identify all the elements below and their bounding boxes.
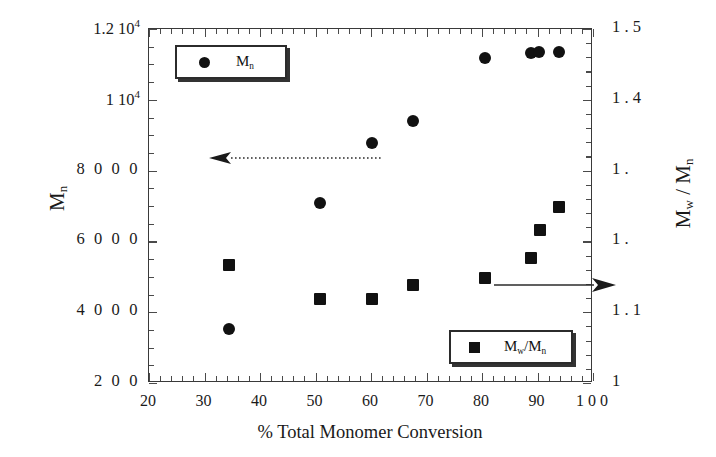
axis-tick (586, 213, 591, 214)
axis-tick (586, 227, 591, 228)
axis-tick (460, 29, 461, 34)
axis-tick (586, 199, 591, 200)
axis-tick (382, 376, 383, 381)
axis-tick (149, 348, 154, 349)
legend-mw-mn[interactable]: Mw/Mn (449, 330, 573, 364)
y-axis-right-tick-label: 1 . 5 (612, 17, 641, 37)
axis-tick (415, 29, 416, 34)
axis-tick (460, 376, 461, 381)
plot-area (148, 28, 592, 382)
axis-tick (549, 376, 550, 381)
axis-tick (316, 29, 317, 37)
y-axis-left-tick-label: 6 0 0 0 (20, 229, 140, 249)
axis-tick (249, 29, 250, 34)
legend-mn[interactable]: Mn (175, 45, 287, 79)
axis-tick (586, 185, 591, 186)
data-point-mw-mn (223, 259, 235, 271)
axis-tick (149, 29, 150, 37)
axis-tick (149, 330, 154, 331)
axis-tick (549, 29, 550, 34)
y-axis-left-tick-label: 1.2 104 (20, 17, 140, 39)
axis-tick (149, 224, 154, 225)
axis-tick (515, 376, 516, 381)
data-point-mn (479, 52, 491, 64)
axis-tick (149, 365, 154, 366)
axis-tick (304, 376, 305, 381)
axis-tick (593, 373, 594, 381)
data-point-mw-mn (525, 252, 537, 264)
axis-tick (583, 241, 591, 242)
axis-tick (583, 171, 591, 172)
y-axis-left-title-sub: n (55, 186, 70, 193)
axis-tick (149, 118, 154, 119)
axis-tick (586, 128, 591, 129)
y-axis-right-title-slash: / (671, 184, 695, 200)
axis-tick (316, 373, 317, 381)
data-point-mn (407, 115, 419, 127)
axis-tick (449, 376, 450, 381)
axis-tick (571, 29, 572, 34)
y-axis-left-title: Mn (45, 168, 72, 228)
y-axis-right-tick-label: 1 (612, 371, 620, 391)
axis-tick (149, 312, 157, 313)
data-point-mn (533, 46, 545, 58)
axis-tick (586, 57, 591, 58)
axis-tick (171, 29, 172, 34)
data-point-mn (553, 46, 565, 58)
data-point-mw-mn (534, 224, 546, 236)
axis-tick (382, 29, 383, 34)
axis-tick (586, 326, 591, 327)
axis-tick (582, 29, 583, 34)
axis-tick (438, 376, 439, 381)
axis-tick (360, 376, 361, 381)
axis-tick (586, 298, 591, 299)
axis-tick (427, 29, 428, 37)
axis-tick (160, 29, 161, 34)
axis-tick (404, 376, 405, 381)
x-axis-title: % Total Monomer Conversion (148, 422, 592, 443)
y-axis-right-title-sub-n: n (681, 159, 696, 166)
axis-tick (360, 29, 361, 34)
axis-tick (349, 376, 350, 381)
axis-tick (227, 29, 228, 34)
axis-tick (149, 373, 150, 381)
axis-tick (238, 376, 239, 381)
axis-tick (149, 241, 157, 242)
y-axis-left-tick-label: 1 104 (20, 88, 140, 110)
left-axis-arrow-icon (209, 149, 384, 167)
x-axis-tick-label: 1 0 0 (557, 392, 627, 410)
axis-tick (171, 376, 172, 381)
axis-tick (249, 376, 250, 381)
axis-tick (260, 373, 261, 381)
axis-tick (515, 29, 516, 34)
axis-tick (205, 29, 206, 37)
axis-tick (583, 29, 591, 30)
axis-tick (449, 29, 450, 34)
y-axis-left-tick-label: 4 0 0 0 (20, 300, 140, 320)
axis-tick (338, 29, 339, 34)
axis-tick (471, 376, 472, 381)
y-axis-exponent: 4 (135, 88, 141, 100)
axis-tick (560, 29, 561, 34)
axis-tick (493, 29, 494, 34)
axis-tick (583, 383, 591, 384)
y-axis-exponent: 4 (135, 17, 141, 29)
axis-tick (526, 376, 527, 381)
y-axis-left-tick-label: 2 0 0 (20, 371, 140, 391)
axis-tick (149, 153, 154, 154)
axis-tick (227, 376, 228, 381)
axis-tick (371, 373, 372, 381)
axis-tick (404, 29, 405, 34)
axis-tick (149, 259, 154, 260)
axis-tick (293, 376, 294, 381)
square-marker-icon (469, 342, 480, 353)
axis-tick (193, 29, 194, 34)
legend-mn-label: Mn (236, 53, 254, 71)
axis-tick (538, 29, 539, 37)
axis-tick (293, 29, 294, 34)
axis-tick (427, 373, 428, 381)
axis-tick (216, 376, 217, 381)
axis-tick (583, 312, 591, 313)
y-axis-right-tick-label: 1 . 4 (612, 88, 641, 108)
axis-tick (149, 82, 154, 83)
